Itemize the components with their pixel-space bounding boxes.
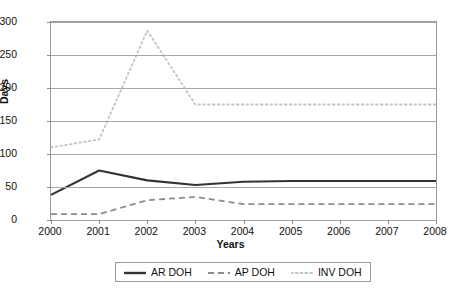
y-tick-mark	[47, 187, 51, 188]
y-tick-label: 200	[0, 82, 17, 92]
series-line-ap-doh	[51, 197, 436, 214]
x-axis-title: Years	[0, 238, 461, 250]
legend-label: AR DOH	[151, 266, 192, 278]
y-tick-label: 0	[0, 214, 17, 224]
gridline	[51, 22, 436, 23]
legend-swatch-dotted	[291, 268, 313, 277]
chart-legend: AR DOHAP DOHINV DOH	[115, 262, 371, 282]
gridline	[51, 187, 436, 188]
y-tick-label: 150	[0, 115, 17, 125]
x-tick-mark	[292, 220, 293, 224]
y-tick-label: 50	[0, 181, 17, 191]
x-tick-mark	[388, 220, 389, 224]
y-tick-mark	[47, 121, 51, 122]
legend-item-ap-doh[interactable]: AP DOH	[208, 266, 275, 278]
x-tick-label: 2006	[316, 225, 362, 237]
x-tick-label: 2008	[412, 225, 458, 237]
y-tick-label: 250	[0, 49, 17, 59]
x-tick-mark	[195, 220, 196, 224]
legend-label: AP DOH	[235, 266, 275, 278]
y-tick-mark	[47, 55, 51, 56]
series-line-ar-doh	[51, 171, 436, 195]
chart-container: Days 050100150200250300 2000200120022003…	[0, 0, 461, 290]
x-tick-mark	[147, 220, 148, 224]
x-tick-label: 2001	[75, 225, 121, 237]
y-tick-label: 100	[0, 148, 17, 158]
gridline	[51, 88, 436, 89]
y-tick-label: 300	[0, 16, 17, 26]
legend-item-inv-doh[interactable]: INV DOH	[291, 266, 362, 278]
legend-swatch-solid	[124, 268, 146, 277]
legend-swatch-dashed	[208, 268, 230, 277]
x-tick-mark	[51, 220, 52, 224]
legend-item-ar-doh[interactable]: AR DOH	[124, 266, 192, 278]
x-tick-mark	[244, 220, 245, 224]
x-tick-label: 2003	[171, 225, 217, 237]
x-tick-label: 2007	[364, 225, 410, 237]
gridline	[51, 55, 436, 56]
x-tick-label: 2004	[220, 225, 266, 237]
gridline	[51, 121, 436, 122]
x-tick-label: 2005	[268, 225, 314, 237]
x-tick-mark	[99, 220, 100, 224]
x-tick-mark	[436, 220, 437, 224]
x-tick-label: 2000	[27, 225, 73, 237]
x-tick-mark	[340, 220, 341, 224]
y-tick-mark	[47, 154, 51, 155]
y-tick-mark	[47, 22, 51, 23]
gridline	[51, 154, 436, 155]
plot-area	[50, 21, 437, 221]
y-tick-mark	[47, 88, 51, 89]
x-tick-label: 2002	[123, 225, 169, 237]
legend-label: INV DOH	[318, 266, 362, 278]
